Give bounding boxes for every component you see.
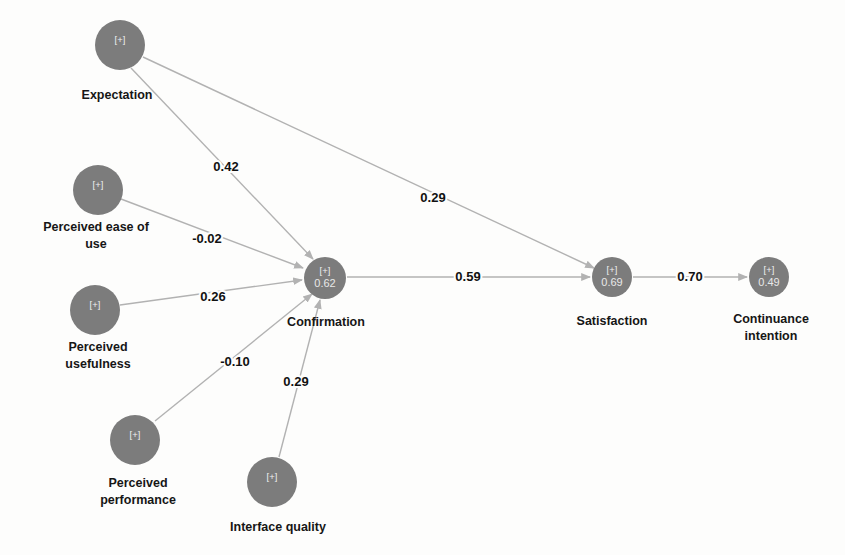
node-label-interface_quality: Interface quality (230, 520, 326, 534)
node-plus-marker-perceived_ease_of_use: [+] (93, 179, 104, 190)
edge-coefficient-perceived-ease-of-use-confirmation: -0.02 (192, 231, 222, 246)
node-expectation[interactable]: [+]Expectation (82, 20, 153, 102)
node-value-satisfaction: 0.69 (601, 276, 622, 288)
node-circle-perceived_ease_of_use[interactable] (73, 165, 123, 215)
edge-coefficient-perceived-usefulness-confirmation: 0.26 (200, 289, 225, 304)
node-plus-marker-confirmation: [+] (320, 265, 331, 276)
sem-diagram-canvas: 0.420.420.290.29-0.02-0.020.260.26-0.10-… (0, 0, 845, 555)
edge-coefficient-interface-quality-confirmation: 0.29 (283, 374, 308, 389)
node-circle-expectation[interactable] (95, 20, 145, 70)
node-plus-marker-perceived_performance: [+] (130, 429, 141, 440)
node-circle-interface_quality[interactable] (247, 457, 297, 507)
node-label-perceived_ease_of_use: Perceived ease of (43, 220, 149, 234)
node-circle-perceived_usefulness[interactable] (70, 285, 120, 335)
node-label-confirmation: Confirmation (287, 315, 365, 329)
node-plus-marker-continuance_intention: [+] (764, 264, 775, 275)
edge-coefficient-satisfaction-continuance-intention: 0.70 (677, 269, 702, 284)
node-plus-marker-interface_quality: [+] (267, 471, 278, 482)
node-label-perceived_usefulness: Perceived (68, 340, 127, 354)
node-label-perceived_performance: performance (100, 493, 176, 507)
edge-coefficient-expectation-confirmation: 0.42 (213, 159, 238, 174)
node-label-perceived_performance: Perceived (108, 476, 167, 490)
node-label-satisfaction: Satisfaction (577, 314, 648, 328)
node-circle-perceived_performance[interactable] (110, 415, 160, 465)
node-satisfaction[interactable]: [+]0.69Satisfaction (577, 257, 648, 328)
node-label-continuance_intention: Continuance (733, 312, 809, 326)
node-plus-marker-satisfaction: [+] (607, 264, 618, 275)
node-value-continuance_intention: 0.49 (758, 276, 779, 288)
node-plus-marker-perceived_usefulness: [+] (90, 299, 101, 310)
node-perceived_performance[interactable]: [+]Perceivedperformance (100, 415, 176, 507)
node-perceived_ease_of_use[interactable]: [+]Perceived ease ofuse (43, 165, 149, 251)
edge-coefficient-perceived-performance-confirmation: -0.10 (220, 354, 250, 369)
edges-layer (120, 57, 747, 457)
sem-diagram-svg: 0.420.420.290.29-0.02-0.020.260.26-0.10-… (0, 0, 845, 555)
node-perceived_usefulness[interactable]: [+]Perceivedusefulness (65, 285, 130, 371)
node-label-perceived_ease_of_use: use (85, 237, 107, 251)
edge-coefficient-expectation-satisfaction: 0.29 (420, 190, 445, 205)
node-label-expectation: Expectation (82, 88, 153, 102)
edge-coefficient-confirmation-satisfaction: 0.59 (455, 269, 480, 284)
node-label-perceived_usefulness: usefulness (65, 357, 130, 371)
node-confirmation[interactable]: [+]0.62Confirmation (287, 257, 365, 329)
node-plus-marker-expectation: [+] (115, 34, 126, 45)
node-interface_quality[interactable]: [+]Interface quality (230, 457, 326, 534)
node-label-continuance_intention: intention (745, 329, 798, 343)
node-value-confirmation: 0.62 (314, 277, 335, 289)
node-continuance_intention[interactable]: [+]0.49Continuanceintention (733, 257, 809, 343)
